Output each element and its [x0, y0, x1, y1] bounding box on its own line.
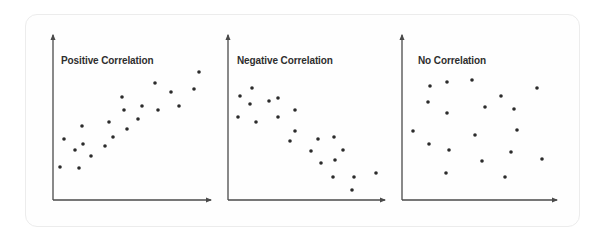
data-point [192, 87, 196, 91]
data-point [267, 99, 271, 103]
data-point [136, 117, 140, 121]
data-point [103, 144, 107, 148]
data-point [483, 105, 487, 109]
data-point [333, 158, 337, 162]
data-point [316, 137, 320, 141]
data-point [499, 94, 503, 98]
panel-title-negative: Negative Correlation [237, 55, 333, 66]
data-point [319, 161, 323, 165]
data-point [248, 102, 252, 106]
data-point [540, 157, 544, 161]
data-point [350, 188, 354, 192]
data-point [156, 108, 160, 112]
data-point [444, 171, 448, 175]
scatter-plots [0, 0, 604, 240]
data-point [288, 139, 292, 143]
data-point [427, 142, 431, 146]
data-point [341, 148, 345, 152]
data-point [73, 148, 77, 152]
data-point [89, 154, 93, 158]
data-point [80, 124, 84, 128]
data-point [503, 175, 507, 179]
data-point [120, 95, 124, 99]
data-point [140, 104, 144, 108]
data-point [238, 94, 242, 98]
data-point [250, 86, 254, 90]
panel-title-positive: Positive Correlation [61, 55, 153, 66]
data-point [331, 175, 335, 179]
data-point [153, 81, 157, 85]
data-point [293, 108, 297, 112]
data-point [352, 175, 356, 179]
data-point [58, 165, 62, 169]
data-point [62, 137, 66, 141]
data-point [332, 135, 336, 139]
panel-title-none: No Correlation [418, 55, 486, 66]
data-point [509, 150, 513, 154]
data-point [445, 111, 449, 115]
data-point [197, 70, 201, 74]
data-point [169, 90, 173, 94]
data-point [480, 159, 484, 163]
data-point [107, 120, 111, 124]
data-point [512, 107, 516, 111]
data-point [276, 115, 280, 119]
data-point [122, 108, 126, 112]
data-point [426, 100, 430, 104]
data-point [535, 86, 539, 90]
data-point [309, 149, 313, 153]
data-point [428, 84, 432, 88]
data-point [473, 133, 477, 137]
data-point [445, 80, 449, 84]
data-point [111, 135, 115, 139]
data-point [411, 129, 415, 133]
data-point [125, 127, 129, 131]
data-point [236, 115, 240, 119]
data-point [470, 78, 474, 82]
data-point [177, 104, 181, 108]
data-point [276, 96, 280, 100]
data-point [515, 128, 519, 132]
data-point [447, 148, 451, 152]
data-point [374, 171, 378, 175]
data-point [293, 129, 297, 133]
data-point [81, 142, 85, 146]
data-point [77, 166, 81, 170]
data-point [254, 120, 258, 124]
